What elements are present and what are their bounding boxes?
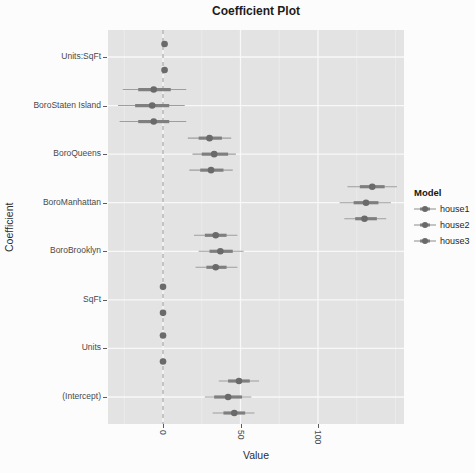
coef-point-house1 (150, 86, 157, 93)
coef-point-house2 (160, 358, 167, 365)
coef-point-house3 (231, 410, 238, 417)
coef-point-house2 (160, 310, 167, 317)
y-tick-mark (103, 397, 107, 398)
y-tick-label: BoroQueens (0, 148, 101, 158)
plot-panel (108, 30, 404, 424)
x-tick-label: 100 (313, 430, 323, 444)
x-tick-mark (241, 424, 242, 428)
legend-title: Model (414, 187, 470, 198)
y-axis-title: Coefficient (2, 30, 16, 424)
legend-item-label: house1 (440, 204, 470, 214)
legend-item-label: house2 (440, 220, 470, 230)
x-tick-mark (163, 424, 164, 428)
y-tick-label: BoroStaten Island (0, 100, 101, 110)
legend-item-house2: house2 (414, 219, 470, 231)
x-tick-mark (318, 424, 319, 428)
x-tick-label: 50 (236, 430, 246, 439)
x-tick-label: 0 (158, 430, 168, 435)
chart-title: Coefficient Plot (108, 4, 404, 18)
y-tick-mark (103, 203, 107, 204)
coef-point-house3 (150, 118, 157, 125)
coef-point-house2 (363, 199, 370, 206)
coef-point-house3 (161, 67, 168, 74)
plot-area (108, 30, 404, 424)
legend-key-icon (414, 204, 436, 214)
y-tick-label: SqFt (0, 294, 101, 304)
x-axis-title: Value (108, 449, 404, 461)
y-tick-label: (Intercept) (0, 391, 101, 401)
coef-point-house1 (206, 135, 213, 142)
coef-point-house2 (211, 151, 218, 158)
y-tick-label: Units:SqFt (0, 51, 101, 61)
coef-point-house3 (212, 264, 219, 271)
y-tick-mark (103, 57, 107, 58)
y-tick-label: Units (0, 342, 101, 352)
legend: Model house1 house2 house3 (414, 187, 470, 251)
coef-point-house1 (160, 284, 167, 291)
legend-item-house3: house3 (414, 235, 470, 247)
y-tick-label: BoroBrooklyn (0, 245, 101, 255)
y-tick-label: BoroManhattan (0, 197, 101, 207)
y-tick-mark (103, 154, 107, 155)
coefficient-plot-figure: Coefficient Plot Coefficient Value Model… (0, 0, 475, 473)
y-tick-mark (103, 300, 107, 301)
legend-key-icon (414, 236, 436, 246)
coef-point-house3 (361, 215, 368, 222)
legend-key-icon (414, 220, 436, 230)
legend-item-house1: house1 (414, 203, 470, 215)
coef-point-house1 (212, 232, 219, 239)
coef-point-house2 (225, 394, 232, 401)
coef-point-house3 (208, 167, 215, 174)
y-tick-mark (103, 251, 107, 252)
coef-point-house2 (161, 41, 168, 48)
y-tick-mark (103, 348, 107, 349)
legend-item-label: house3 (440, 236, 470, 246)
coef-point-house1 (369, 183, 376, 190)
coef-point-house2 (149, 102, 156, 109)
y-tick-mark (103, 106, 107, 107)
coef-point-house2 (217, 248, 224, 255)
coef-point-house1 (160, 332, 167, 339)
coef-point-house1 (236, 378, 243, 385)
